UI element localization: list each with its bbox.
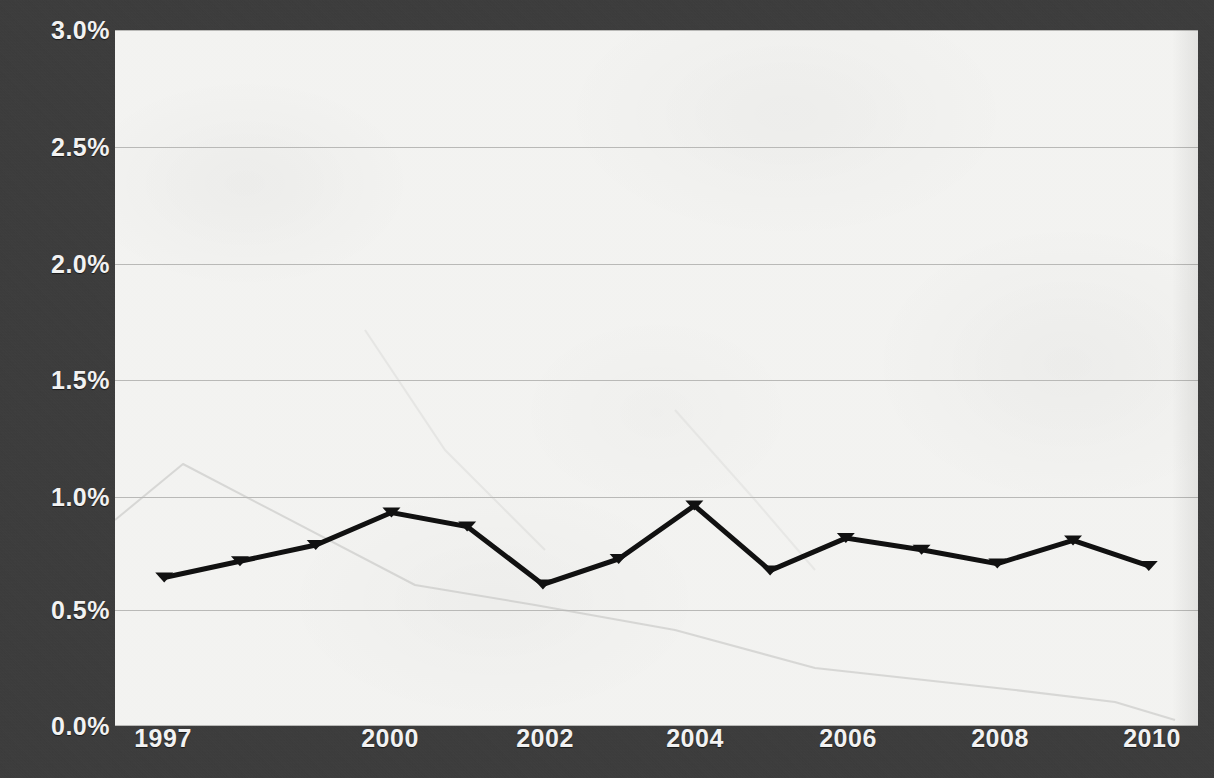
- chart-screenshot: 3.0% 2.5% 2.0% 1.5% 1.0% 0.5% 0.0% 1997 …: [0, 0, 1214, 778]
- y-tick-label-2.5: 2.5%: [51, 133, 110, 162]
- y-tick-label-3.0: 3.0%: [51, 16, 110, 45]
- data-series-line: [115, 30, 1198, 726]
- x-tick-label-2004: 2004: [666, 724, 724, 753]
- x-tick-label-2000: 2000: [361, 724, 419, 753]
- y-tick-label-0.5: 0.5%: [51, 596, 110, 625]
- x-tick-label-2002: 2002: [516, 724, 574, 753]
- series-values-readout: 1997: 0.64%, 1998: 0.71%, 1999: 0.78%, 2…: [0, 0, 1, 1]
- y-tick-label-1.5: 1.5%: [51, 366, 110, 395]
- x-tick-label-2010: 2010: [1123, 724, 1181, 753]
- x-tick-label-2006: 2006: [819, 724, 877, 753]
- y-tick-label-0.0: 0.0%: [51, 712, 110, 741]
- y-tick-label-2.0: 2.0%: [51, 250, 110, 279]
- x-tick-label-2008: 2008: [971, 724, 1029, 753]
- plot-area: [115, 30, 1198, 726]
- x-tick-label-1997: 1997: [134, 724, 192, 753]
- y-tick-label-1.0: 1.0%: [51, 483, 110, 512]
